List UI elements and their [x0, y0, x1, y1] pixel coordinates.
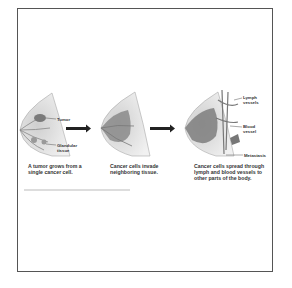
lymph-leader-line: [234, 98, 242, 100]
label-tumor: Tumor: [57, 117, 70, 122]
arrow-right-icon: [150, 125, 175, 133]
label-blood-line2: vessel: [243, 129, 256, 134]
credit-line: [24, 189, 130, 191]
caption-stage-2: Cancer cells invade neighboring tissue.: [110, 163, 158, 175]
diagram-stage: Tumor Glandular tissue Lymph vessels Blo…: [0, 0, 292, 288]
breast-illustration-stage-3: [185, 90, 243, 156]
label-glandular-line2: tissue: [57, 148, 69, 153]
caption-stage-3-line-3: other parts of the body.: [194, 175, 264, 181]
breast-illustration-stage-2: [101, 92, 150, 156]
diagram-illustration: [0, 0, 292, 288]
blood-leader-line: [230, 126, 242, 127]
caption-stage-1-line-2: single cancer cell.: [28, 169, 82, 175]
arrow-right-icon: [66, 125, 91, 133]
label-metastasis: Metastasis: [244, 153, 266, 158]
caption-stage-3: Cancer cells spread through lymph and bl…: [194, 163, 264, 181]
caption-stage-2-line-2: neighboring tissue.: [110, 169, 158, 175]
caption-stage-1: A tumor grows from a single cancer cell.: [28, 163, 82, 175]
label-lymph-line2: vessels: [243, 100, 259, 105]
